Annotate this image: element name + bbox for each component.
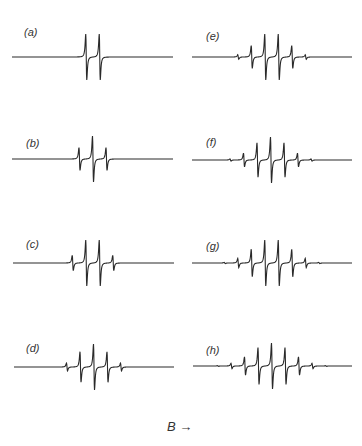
magnetic-field-symbol: B bbox=[167, 419, 176, 434]
epr-spectra-figure: (a) (b) (c) (d) (e) (f) (g) (h) B → bbox=[0, 0, 362, 446]
spectra-plot-area bbox=[0, 0, 362, 446]
panel-label-b: (b) bbox=[26, 137, 39, 149]
x-axis-label: B → bbox=[167, 419, 192, 434]
spectrum-trace-a bbox=[12, 34, 173, 80]
panel-label-g: (g) bbox=[206, 240, 219, 252]
panel-label-a: (a) bbox=[24, 26, 37, 38]
panel-label-f: (f) bbox=[206, 136, 216, 148]
panel-label-e: (e) bbox=[206, 30, 219, 42]
panel-label-d: (d) bbox=[26, 342, 39, 354]
panel-label-h: (h) bbox=[206, 344, 219, 356]
arrow-right-icon: → bbox=[179, 419, 192, 434]
panel-label-c: (c) bbox=[26, 238, 39, 250]
